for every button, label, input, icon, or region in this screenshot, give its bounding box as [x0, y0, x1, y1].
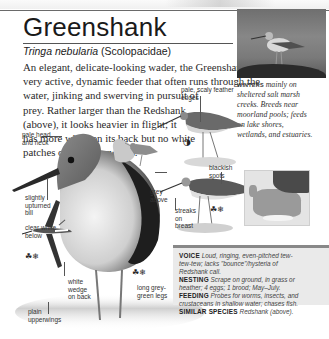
label-text: grey — [150, 188, 163, 195]
leader-line — [155, 172, 167, 173]
label-blackish-spots: blackish spots — [209, 164, 232, 179]
label-long-legs: long grey- green legs — [137, 284, 167, 299]
species-info-box: VOICE Loud, ringing, even-pitched tew- t… — [173, 245, 329, 305]
label-pale-head: pale head and neck — [22, 131, 51, 146]
label-grey-above: grey above — [150, 188, 168, 203]
label-upturned-bill: slightly upturned bill — [25, 194, 51, 217]
juvenile-moon-icon: ◑ — [183, 137, 191, 147]
leader-line — [64, 262, 65, 276]
label-white-wedge: white wedge on back — [68, 278, 91, 301]
label-text: white — [68, 278, 83, 285]
label-text: spots — [209, 172, 225, 179]
voice-label: VOICE — [179, 252, 200, 259]
label-text: clear white — [25, 224, 56, 231]
voice-text: tew-tew; lacks "bounce"/hysteria of — [179, 260, 278, 267]
label-streaks: streaks on breast — [175, 207, 196, 230]
label-text: blackish — [209, 164, 232, 171]
map-breeding-range — [273, 171, 310, 193]
label-text: streaks — [175, 207, 196, 214]
label-plain-upperwings: plain upperwings — [28, 308, 61, 323]
label-text: on — [175, 215, 182, 222]
map-sea-mediterranean — [263, 215, 293, 221]
label-text: long grey- — [137, 284, 166, 291]
voice-text: Loud, ringing, even-pitched tew- — [202, 252, 293, 259]
feeding-entry: FEEDING Probes for worms, insects, and c… — [179, 292, 324, 308]
nesting-text: Scrape on ground, in grass or — [211, 276, 295, 283]
label-text: plain — [28, 308, 42, 315]
feeding-text: crustaceans in shallow water; chases fis… — [179, 300, 298, 307]
map-land-europe — [253, 189, 301, 217]
label-scaly-edges: pale, scaly feather edges — [181, 86, 234, 101]
label-text: upperwings — [28, 316, 61, 323]
nesting-text: heather; 4 eggs; 1 brood; May–July. — [179, 284, 280, 291]
feeding-text: Probes for worms, insects, and — [211, 292, 299, 299]
season-icons-main: ☘❄ — [132, 268, 146, 277]
label-text: bill — [25, 209, 33, 216]
distribution-map — [244, 170, 310, 226]
season-icons-flight: ☘❄ — [25, 252, 39, 261]
voice-entry: VOICE Loud, ringing, even-pitched tew- t… — [179, 252, 324, 276]
map-land-britain — [249, 185, 257, 197]
label-text: pale head — [22, 131, 51, 138]
nesting-label: NESTING — [179, 276, 209, 283]
label-text: upturned — [25, 202, 51, 209]
similar-species-label: SIMILAR SPECIES — [179, 308, 238, 315]
season-icons-spotted: ☘❄ — [210, 205, 224, 214]
label-text: wedge — [68, 286, 87, 293]
similar-species-text: Redshank (above). — [240, 308, 294, 315]
label-clear-white: clear white below — [25, 224, 56, 239]
feeding-label: FEEDING — [179, 292, 209, 299]
label-text: pale, scaly feather — [181, 86, 234, 93]
label-text: and neck — [22, 139, 48, 146]
nesting-entry: NESTING Scrape on ground, in grass or he… — [179, 276, 324, 292]
label-text: slightly — [25, 194, 45, 201]
label-text: breast — [175, 222, 193, 229]
label-text: below — [25, 232, 42, 239]
label-text: green legs — [137, 292, 167, 299]
similar-species-entry: SIMILAR SPECIES Redshank (above). — [179, 308, 324, 316]
label-text: on back — [68, 293, 91, 300]
label-text: above — [150, 196, 168, 203]
voice-text: Redshank call. — [179, 268, 221, 275]
label-text: edges — [181, 94, 199, 101]
